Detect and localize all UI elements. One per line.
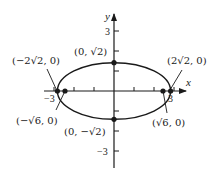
vertex-left-label: (−2√2, 0) <box>12 55 60 66</box>
covertex-bottom-point <box>111 117 116 122</box>
vertex-right-label: (2√2, 0) <box>167 55 207 66</box>
ellipse-diagram: x y 3 −3 −3 3 (−2√2, 0) (2√2, 0) (0, √2)… <box>0 0 218 173</box>
x-tick-label-neg3: −3 <box>44 93 55 104</box>
focus-right-point <box>160 88 165 93</box>
focus-right-label: (√6, 0) <box>152 117 185 128</box>
y-tick-label-3: 3 <box>105 26 110 37</box>
covertex-top-label: (0, √2) <box>74 46 107 57</box>
focus-left-point <box>62 88 67 93</box>
y-tick-label-neg3: −3 <box>97 146 108 157</box>
x-axis-label: x <box>185 76 191 88</box>
vertex-right-point <box>168 88 173 93</box>
covertex-bottom-label: (0, −√2) <box>64 126 106 137</box>
y-axis-label: y <box>104 10 110 22</box>
covertex-top-point <box>111 60 116 65</box>
focus-left-label: (−√6, 0) <box>16 115 58 126</box>
vertex-left-point <box>55 88 60 93</box>
